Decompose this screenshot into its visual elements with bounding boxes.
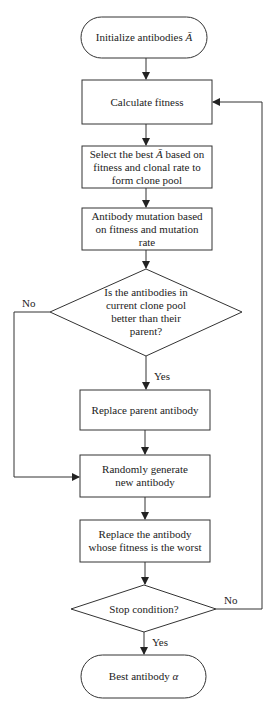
start-label: Initialize antibodies Ā [81, 17, 207, 58]
antibody-set-symbol: Ā [186, 31, 193, 44]
no-label-decision2: No [224, 594, 237, 606]
decision-stop-label: Stop condition? [80, 598, 208, 620]
replace-parent-label: Replace parent antibody [80, 390, 210, 430]
decision-better-label: Is the antibodies in current clone pool … [96, 280, 196, 344]
select-text-pre: Select the best [90, 148, 154, 160]
alpha-symbol: α [172, 670, 178, 683]
replace-worst-label: Replace the antibody whose fitness is th… [84, 520, 206, 562]
mutation-label: Antibody mutation based on fitness and m… [86, 208, 208, 250]
yes-label-decision2: Yes [152, 636, 168, 648]
end-label: Best antibody α [81, 655, 206, 698]
antibody-set-symbol: Ā [156, 148, 163, 160]
random-generate-label: Randomly generate new antibody [92, 455, 198, 497]
calculate-fitness-label: Calculate fitness [82, 80, 212, 124]
select-label: Select the best Ā based on fitness and c… [84, 146, 210, 188]
no-label-decision1: No [22, 297, 35, 309]
yes-label-decision1: Yes [154, 370, 170, 382]
end-text: Best antibody [109, 670, 170, 683]
start-text: Initialize antibodies [96, 31, 183, 44]
